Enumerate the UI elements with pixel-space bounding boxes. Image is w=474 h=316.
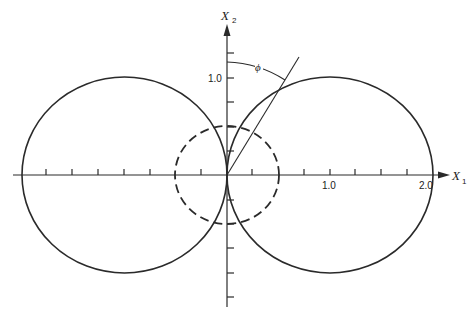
x1-arrowhead-icon: [438, 172, 450, 179]
x2-tick-label-1: 1.0: [208, 73, 222, 84]
diagram-canvas: X 2 X 1 1.0 2.0 1.0 ϕ: [0, 0, 474, 316]
x1-axis-label: X: [451, 168, 461, 183]
x2-axis-label: X: [220, 8, 230, 23]
angle-ray: [227, 57, 299, 175]
x2-axis-subscript: 2: [232, 16, 237, 25]
x1-tick-label-1: 1.0: [322, 180, 336, 191]
diagram-svg: X 2 X 1 1.0 2.0 1.0 ϕ: [0, 0, 474, 316]
x2-arrowhead-icon: [224, 24, 231, 36]
x1-axis-subscript: 1: [462, 177, 467, 186]
x1-tick-label-2: 2.0: [419, 180, 433, 191]
phi-angle-label: ϕ: [255, 61, 261, 73]
